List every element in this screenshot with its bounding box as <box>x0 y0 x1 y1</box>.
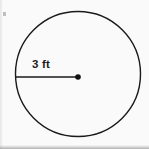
circle-center-point-dot <box>75 74 81 80</box>
radius-measurement-label: 3 ft <box>32 58 50 71</box>
circle-radius-diagram: 3 ft <box>0 0 149 149</box>
geometry-figure-svg <box>0 0 149 149</box>
circle-outline-shape <box>16 12 141 137</box>
